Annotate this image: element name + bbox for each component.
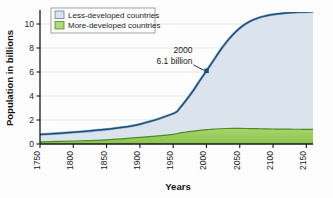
y-tick-label: 4 [29, 91, 34, 101]
annotation-value: 6.1 billion [157, 56, 193, 66]
y-tick-label: 10 [25, 19, 35, 29]
x-tick-label: 1950 [165, 151, 175, 170]
x-tick-label: 2000 [198, 151, 208, 170]
legend-label-more-developed: More-developed countries [68, 21, 161, 30]
x-tick-label: 2050 [232, 151, 242, 170]
x-tick-label: 1800 [65, 151, 75, 170]
x-tick-label: 2150 [298, 151, 308, 170]
y-tick-label: 8 [29, 43, 34, 53]
x-axis-title: Years [165, 181, 190, 192]
legend: Less-developed countries More-developed … [51, 8, 161, 33]
y-axis-title: Population in billions [4, 30, 15, 126]
legend-swatch-more-developed [55, 22, 64, 30]
annotation-year: 2000 [174, 45, 193, 55]
y-tick-label: 6 [29, 67, 34, 77]
legend-swatch-less-developed [55, 11, 64, 19]
population-growth-chart: 175018001850190019502000205021002150 024… [0, 0, 333, 198]
annotation-marker [204, 69, 209, 74]
y-tick-label: 0 [29, 139, 34, 149]
x-tick-label: 1750 [32, 151, 42, 170]
x-tick-label: 2100 [265, 151, 275, 170]
legend-label-less-developed: Less-developed countries [68, 11, 159, 20]
x-tick-labels: 175018001850190019502000205021002150 [32, 151, 308, 170]
chart-canvas: 175018001850190019502000205021002150 024… [0, 0, 333, 198]
x-tick-label: 1900 [132, 151, 142, 170]
y-tick-label: 2 [29, 115, 34, 125]
x-tick-label: 1850 [99, 151, 109, 170]
